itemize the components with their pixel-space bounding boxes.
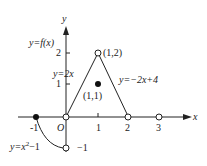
origin-label: O [57,123,64,133]
x-axis-label: x [193,112,197,122]
point-0-neg1-open [63,145,69,151]
function-label: y=f(x) [29,38,54,48]
y-axis-label: y [62,14,66,24]
point-1-2-open [95,50,101,56]
point-label-1-1: (1,1) [83,91,102,101]
piece-label-y-x2-text: y=x [10,141,26,152]
point-1-1-filled [95,81,101,87]
point-label-1-2: (1,2) [103,48,122,58]
y-tick-label-1: 1 [56,79,61,89]
x-tick-label-3: 3 [156,123,161,133]
piece-label-y-2x: y=2x [53,69,74,79]
point-2-0-open [125,114,131,120]
y-axis-arrow-icon [63,26,69,35]
point-origin-open [63,114,69,120]
x-axis-arrow-icon [183,114,192,120]
x-tick-label-2: 2 [125,123,130,133]
piece-label-tail: −1 [29,141,40,152]
piece-label-y-x2-minus1: y=x2−1 [10,141,40,152]
y-tick-label-neg1: −1 [77,143,88,153]
point-neg1-0-filled [33,114,39,120]
y-tick-label-2: 2 [56,48,61,58]
point-3-0-open [156,114,162,120]
segment-y-neg2x-plus4 [100,56,128,114]
piece-label-y-neg2x-plus4: y=−2x+4 [119,75,158,85]
x-tick-label-1: 1 [96,123,101,133]
x-tick-label-neg1: -1 [30,123,38,133]
segment-y-2x [66,56,97,117]
